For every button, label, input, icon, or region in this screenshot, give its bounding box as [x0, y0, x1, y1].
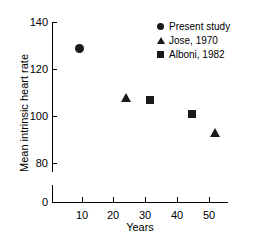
- legend-label-alboni-1982: Alboni, 1982: [169, 50, 225, 60]
- data-point-jose-1970-1: [121, 93, 131, 102]
- y-axis-line-upper: [52, 22, 53, 172]
- y-tick-label-120-wrap: 120: [14, 64, 48, 75]
- x-axis-title: Years: [52, 221, 228, 233]
- x-tick-label-50: 50: [203, 209, 215, 221]
- data-point-present-study-1: [75, 44, 84, 53]
- legend-label-jose-1970: Jose, 1970: [169, 36, 218, 46]
- y-tick-label-100: 100: [14, 111, 48, 122]
- x-tick-label-20: 20: [107, 209, 119, 221]
- legend-item-present-study: Present study: [155, 20, 230, 33]
- x-tick-label-40: 40: [171, 209, 183, 221]
- y-tick-label-0: 0: [14, 197, 48, 208]
- legend-circle-icon: [155, 23, 166, 30]
- y-tick-label-140: 140: [14, 17, 48, 28]
- y-tick-80: [52, 163, 57, 164]
- chart-figure: Mean intrinsic heart rate 140 120 100 80…: [0, 0, 263, 246]
- y-tick-label-80-wrap: 80: [14, 158, 48, 169]
- y-tick-140: [52, 22, 57, 23]
- x-tick-40: [177, 197, 178, 202]
- data-point-jose-1970-2: [210, 128, 220, 137]
- x-tick-label-30: 30: [139, 209, 151, 221]
- y-tick-label-100-wrap: 100: [14, 111, 48, 122]
- chart-legend: Present study Jose, 1970 Alboni, 1982: [155, 20, 230, 62]
- x-tick-20: [113, 197, 114, 202]
- y-tick-120: [52, 69, 57, 70]
- y-tick-label-0-wrap: 0: [14, 197, 48, 208]
- x-tick-50: [209, 197, 210, 202]
- legend-label-present-study: Present study: [169, 22, 230, 32]
- legend-item-jose-1970: Jose, 1970: [155, 34, 230, 47]
- y-tick-label-140-wrap: 140: [14, 17, 48, 28]
- x-tick-label-10: 10: [76, 209, 88, 221]
- data-point-alboni-1982-2: [188, 110, 196, 118]
- x-axis-line: [52, 202, 228, 203]
- x-tick-30: [145, 197, 146, 202]
- y-tick-label-80: 80: [14, 158, 48, 169]
- x-tick-10: [82, 197, 83, 202]
- y-tick-100: [52, 116, 57, 117]
- y-axis-line-lower: [52, 185, 53, 203]
- legend-item-alboni-1982: Alboni, 1982: [155, 48, 230, 61]
- legend-square-icon: [155, 51, 166, 58]
- data-point-alboni-1982-1: [146, 96, 154, 104]
- y-tick-label-120: 120: [14, 64, 48, 75]
- legend-triangle-icon: [155, 37, 166, 44]
